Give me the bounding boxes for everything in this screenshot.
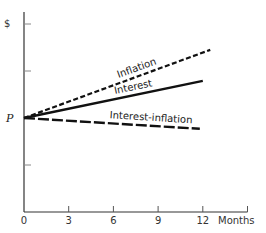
x-ticks: 036912: [21, 206, 248, 226]
chart: $ P Months 036912 InflationInterestInter…: [0, 0, 266, 233]
x-tick-label: 12: [196, 215, 209, 226]
x-tick-label: 6: [110, 215, 116, 226]
x-tick-label: 0: [21, 215, 27, 226]
y-axis-label: $: [4, 18, 10, 29]
x-tick-label: 9: [155, 215, 161, 226]
x-axis-label: Months: [218, 215, 255, 226]
y-ticks: [24, 24, 31, 165]
p-origin-label: P: [5, 112, 14, 125]
x-tick-label: 3: [66, 215, 72, 226]
